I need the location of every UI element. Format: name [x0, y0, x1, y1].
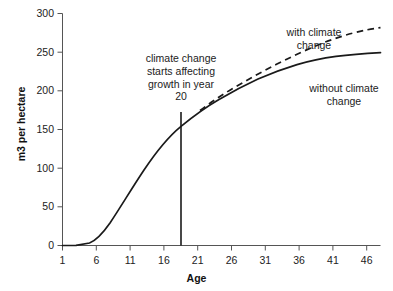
- y-axis-title: m3 per hectare: [15, 59, 27, 189]
- chart-figure: 0 50 100 150 200 250 300 1 6 11 16 21 26…: [0, 0, 393, 291]
- x-tick-label-26: 26: [217, 254, 247, 266]
- y-tick-label-250: 250: [14, 46, 54, 58]
- y-axis-ticks: [58, 14, 63, 246]
- x-tick-label-21: 21: [183, 254, 213, 266]
- x-tick-label-31: 31: [250, 254, 280, 266]
- x-tick-label-41: 41: [318, 254, 348, 266]
- x-tick-label-46: 46: [352, 254, 382, 266]
- x-tick-label-16: 16: [149, 254, 179, 266]
- y-tick-label-0: 0: [14, 239, 54, 251]
- annotation-climate-change-start: climate change starts affecting growth i…: [121, 52, 241, 103]
- y-tick-label-300: 300: [14, 7, 54, 19]
- annotation-with-climate-change: with climate change: [272, 26, 356, 52]
- x-tick-label-1: 1: [48, 254, 78, 266]
- x-tick-label-6: 6: [81, 254, 111, 266]
- x-axis-title: Age: [0, 272, 393, 284]
- x-tick-label-11: 11: [115, 254, 145, 266]
- annotation-without-climate-change: without climate change: [296, 82, 392, 108]
- x-axis-ticks: [63, 246, 367, 251]
- y-tick-label-50: 50: [14, 200, 54, 212]
- x-tick-label-36: 36: [284, 254, 314, 266]
